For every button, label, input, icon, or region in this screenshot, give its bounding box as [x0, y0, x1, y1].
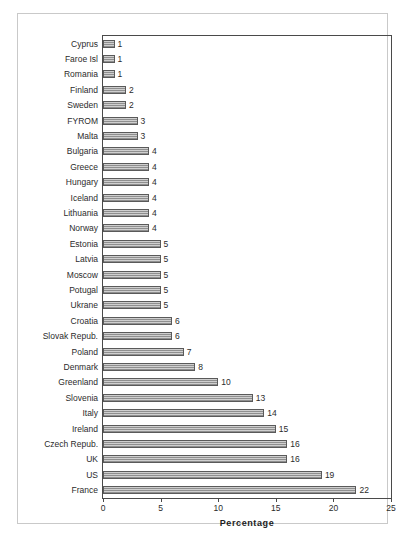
- bar-row: Italy14: [103, 406, 391, 421]
- x-axis-tick: [391, 498, 392, 502]
- bar: 2: [103, 86, 126, 94]
- category-label: Malta: [77, 132, 98, 141]
- bar-value-label: 14: [267, 409, 276, 418]
- category-label: Greece: [70, 163, 98, 172]
- bar-value-label: 22: [359, 486, 368, 495]
- bar-value-label: 1: [118, 39, 123, 48]
- bar-row: Slovenia13: [103, 390, 391, 405]
- bar-row: Latvia5: [103, 252, 391, 267]
- x-axis-tick: [333, 498, 334, 502]
- category-label: Finland: [70, 86, 98, 95]
- category-label: Czech Repub.: [44, 440, 98, 449]
- category-label: Estonia: [70, 240, 98, 249]
- bar: 22: [103, 486, 356, 494]
- category-label: Croatia: [71, 317, 98, 326]
- bar-value-label: 6: [175, 317, 180, 326]
- category-label: UK: [86, 455, 98, 464]
- category-label: Ireland: [72, 424, 98, 433]
- category-label: Slovenia: [65, 394, 98, 403]
- bar-row: Ireland15: [103, 421, 391, 436]
- bar-row: Faroe Isl1: [103, 51, 391, 66]
- bar-row: Lithuania4: [103, 205, 391, 220]
- bar-value-label: 4: [152, 178, 157, 187]
- bar-row: Denmark8: [103, 359, 391, 374]
- x-axis-tick-label: 25: [386, 504, 395, 513]
- bar-value-label: 8: [198, 363, 203, 372]
- bar: 1: [103, 70, 115, 78]
- bar: 19: [103, 471, 322, 479]
- bar: 3: [103, 132, 138, 140]
- bar-row: UK16: [103, 452, 391, 467]
- bar-row: France22: [103, 483, 391, 498]
- bar-row: Ukrane5: [103, 298, 391, 313]
- bar: 1: [103, 40, 115, 48]
- bar-row: Moscow5: [103, 267, 391, 282]
- bar-row: Hungary4: [103, 175, 391, 190]
- bar-row: Greenland10: [103, 375, 391, 390]
- plot-area: Cyprus1Faroe Isl1Romania1Finland2Sweden2…: [102, 35, 392, 499]
- bar-value-label: 4: [152, 209, 157, 218]
- category-label: FYROM: [67, 116, 98, 125]
- bar-row: Czech Repub.16: [103, 436, 391, 451]
- bar: 5: [103, 240, 161, 248]
- bar: 13: [103, 394, 253, 402]
- bar: 7: [103, 348, 184, 356]
- category-label: Faroe Isl: [65, 55, 98, 64]
- category-label: US: [86, 471, 98, 480]
- x-axis-title: Percentage: [102, 518, 392, 528]
- x-axis-tick: [161, 498, 162, 502]
- bar: 6: [103, 332, 172, 340]
- bar-value-label: 5: [164, 270, 169, 279]
- bar: 6: [103, 317, 172, 325]
- bar-row: Slovak Repub.6: [103, 329, 391, 344]
- x-axis-tick: [218, 498, 219, 502]
- category-label: Cyprus: [71, 39, 98, 48]
- bar-value-label: 15: [279, 424, 288, 433]
- category-label: Moscow: [67, 270, 98, 279]
- bar-value-label: 4: [152, 224, 157, 233]
- bar-row: Norway4: [103, 221, 391, 236]
- bar-row: Malta3: [103, 128, 391, 143]
- bar-row: Bulgaria4: [103, 144, 391, 159]
- bar: 5: [103, 301, 161, 309]
- bar: 4: [103, 178, 149, 186]
- bar-row: US19: [103, 467, 391, 482]
- category-label: Ukrane: [71, 301, 98, 310]
- bar-row: Finland2: [103, 82, 391, 97]
- bar-value-label: 10: [221, 378, 230, 387]
- x-axis-tick-label: 0: [101, 504, 106, 513]
- bar-value-label: 16: [290, 440, 299, 449]
- category-label: Italy: [82, 409, 98, 418]
- category-label: Bulgaria: [67, 147, 98, 156]
- x-axis-tick-label: 15: [271, 504, 280, 513]
- bar-value-label: 1: [118, 55, 123, 64]
- category-label: Norway: [69, 224, 98, 233]
- category-label: Potugal: [69, 286, 98, 295]
- bar-value-label: 3: [141, 132, 146, 141]
- bar-row: FYROM3: [103, 113, 391, 128]
- bar-value-label: 16: [290, 455, 299, 464]
- bar: 1: [103, 55, 115, 63]
- bar-row: Romania1: [103, 67, 391, 82]
- bar-rows: Cyprus1Faroe Isl1Romania1Finland2Sweden2…: [103, 36, 391, 498]
- bar: 16: [103, 455, 287, 463]
- category-label: Latvia: [75, 255, 98, 264]
- category-label: Denmark: [64, 363, 98, 372]
- category-label: Hungary: [66, 178, 98, 187]
- bar-value-label: 4: [152, 193, 157, 202]
- category-label: Greenland: [58, 378, 98, 387]
- bar-value-label: 2: [129, 101, 134, 110]
- bar: 4: [103, 209, 149, 217]
- bar-value-label: 5: [164, 255, 169, 264]
- bar-value-label: 13: [256, 394, 265, 403]
- bar-row: Croatia6: [103, 313, 391, 328]
- bar: 16: [103, 440, 287, 448]
- bar-row: Cyprus1: [103, 36, 391, 51]
- category-label: Poland: [72, 347, 98, 356]
- bar-value-label: 4: [152, 163, 157, 172]
- bar-value-label: 19: [325, 471, 334, 480]
- bar-value-label: 1: [118, 70, 123, 79]
- category-label: Sweden: [67, 101, 98, 110]
- bar-value-label: 6: [175, 332, 180, 341]
- category-label: France: [72, 486, 98, 495]
